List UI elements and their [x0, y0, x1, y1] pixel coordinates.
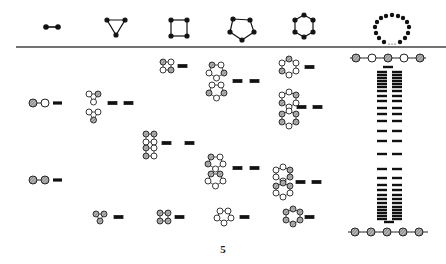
chain-band-levels	[377, 66, 402, 223]
header-pentagon-icon	[228, 17, 256, 42]
hexagon-state-shaded	[283, 206, 314, 227]
chain-bottom-shaded	[348, 228, 428, 236]
header-triangle-icon	[105, 18, 127, 37]
dimer-state-shaded	[29, 176, 62, 184]
page-number: 5	[0, 243, 446, 255]
chain-top-alternating	[350, 54, 426, 62]
triangle-state-shaded	[93, 211, 123, 224]
dimer-state-mixed	[29, 99, 62, 107]
square-state-shaded	[157, 210, 184, 224]
pentagon-state-mixed-bottom	[205, 154, 259, 189]
pentagon-state-open	[214, 208, 249, 226]
square-state-pairs	[143, 131, 194, 159]
hexagon-state-mixed-bottom	[273, 164, 321, 200]
header-large-ring-icon	[373, 13, 411, 45]
header-hexagon-icon	[293, 13, 315, 39]
header-dimer-icon	[44, 25, 60, 29]
square-state-alternating	[160, 59, 187, 73]
triangle-state-mixed	[86, 91, 133, 123]
pentagon-state-mixed-top	[206, 62, 259, 101]
hexagon-state-mixed-top	[279, 89, 322, 129]
header-square-icon	[169, 18, 189, 38]
diagram	[0, 0, 446, 264]
hexagon-state-alternating	[279, 56, 314, 78]
